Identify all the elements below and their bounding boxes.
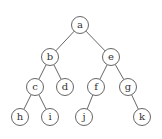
edge-b-c — [39, 65, 46, 80]
tree-edges — [24, 31, 139, 109]
tree-node-h: h — [12, 109, 29, 126]
tree-node-k: k — [134, 109, 151, 126]
edge-e-g — [115, 64, 124, 79]
node-label: g — [125, 81, 132, 92]
tree-node-b: b — [42, 49, 59, 66]
edge-c-i — [39, 95, 46, 110]
edge-b-d — [54, 65, 61, 80]
tree-nodes: abecdfghijk — [12, 17, 151, 126]
node-label: c — [32, 81, 38, 92]
tree-node-e: e — [103, 49, 120, 66]
edge-a-b — [56, 31, 74, 51]
node-label: d — [62, 81, 69, 92]
edge-c-h — [24, 95, 31, 110]
node-label: h — [17, 111, 24, 122]
binary-tree-diagram: abecdfghijk — [0, 0, 162, 139]
node-label: b — [47, 51, 53, 62]
node-label: a — [77, 19, 83, 30]
tree-node-g: g — [120, 79, 137, 96]
node-label: j — [81, 111, 85, 122]
edge-g-k — [132, 95, 139, 110]
node-label: i — [48, 111, 51, 122]
edge-a-e — [86, 31, 105, 51]
tree-node-a: a — [72, 17, 89, 34]
node-label: e — [108, 51, 114, 62]
edge-f-j — [87, 95, 93, 109]
tree-node-i: i — [42, 109, 59, 126]
tree-node-d: d — [57, 79, 74, 96]
edge-e-f — [100, 65, 107, 80]
node-label: k — [139, 111, 146, 122]
tree-node-f: f — [88, 79, 105, 96]
tree-node-j: j — [76, 109, 93, 126]
tree-node-c: c — [27, 79, 44, 96]
